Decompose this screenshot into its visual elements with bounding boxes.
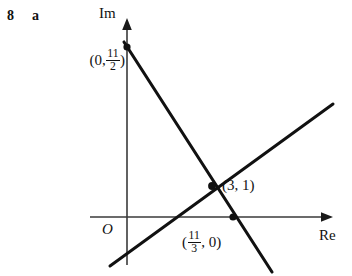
imaginary-intercept-denominator: 2 (106, 61, 119, 73)
intersection-label: (3, 1) (222, 178, 255, 193)
imaginary-intercept-numerator: 11 (106, 48, 119, 61)
imaginary-intercept-label: (0,112) (89, 48, 125, 73)
real-axis-arrowhead (321, 212, 333, 222)
real-intercept-fraction: 113 (188, 230, 201, 255)
figure-page: 8 a Im Re O (0,112) (3, 1) (113, 0) (0, 0, 352, 276)
imaginary-intercept-fraction: 112 (106, 48, 119, 73)
imaginary-axis-arrowhead (122, 18, 132, 30)
imaginary-intercept-open: (0, (89, 52, 105, 68)
real-intercept-close: , 0) (201, 234, 221, 250)
exercise-number: 8 (7, 9, 15, 23)
real-intercept-denominator: 3 (188, 243, 201, 255)
real-intercept-label: (113, 0) (182, 230, 221, 255)
complex-plane-diagram (0, 0, 352, 276)
real-intercept-point (229, 213, 236, 220)
imaginary-axis-label: Im (99, 6, 116, 21)
intersection-point (208, 182, 216, 190)
real-intercept-open: ( (182, 234, 187, 250)
imaginary-intercept-close: ) (120, 52, 125, 68)
origin-label: O (102, 222, 113, 237)
real-axis-label: Re (319, 228, 336, 243)
exercise-part-letter: a (32, 9, 39, 23)
real-intercept-numerator: 11 (188, 230, 201, 243)
